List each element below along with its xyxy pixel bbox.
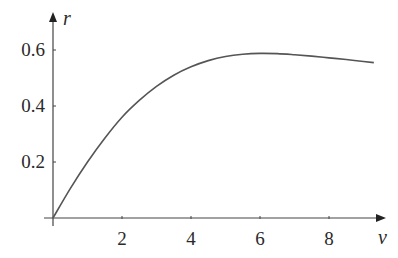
x-axis-label: v	[378, 226, 387, 248]
axes	[44, 12, 386, 226]
x-tick-label: 8	[324, 228, 334, 249]
x-tick-label: 4	[186, 228, 196, 249]
series	[53, 53, 374, 218]
y-tick-label: 0.2	[21, 151, 45, 172]
x-tick-label: 6	[255, 228, 265, 249]
y-tick-label: 0.6	[21, 39, 45, 60]
data-line	[53, 53, 374, 218]
line-chart: 24680.20.40.6 v r	[0, 0, 398, 258]
x-axis-arrow-icon	[376, 214, 386, 222]
y-axis-arrow-icon	[49, 12, 57, 22]
y-axis-label: r	[63, 7, 71, 29]
x-tick-label: 2	[117, 228, 127, 249]
y-tick-label: 0.4	[21, 95, 45, 116]
